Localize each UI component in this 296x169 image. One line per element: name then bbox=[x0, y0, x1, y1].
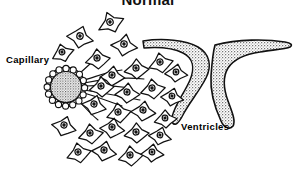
astrocyte-cell bbox=[95, 8, 127, 36]
astrocyte-cell bbox=[130, 100, 157, 123]
astrocyte-cell bbox=[84, 47, 112, 70]
astrocyte-cell bbox=[123, 122, 149, 144]
astrocyte-cell bbox=[64, 140, 93, 165]
diagram-canvas bbox=[0, 0, 296, 169]
astrocyte-cell bbox=[49, 113, 79, 139]
astrocyte-cell bbox=[77, 122, 105, 146]
astrocyte-cell bbox=[140, 143, 164, 163]
capillary-lumen bbox=[51, 72, 82, 103]
astrocyte-cell bbox=[104, 100, 133, 125]
figure-normal-astrocyte-diagram: Normal Capillary Ventricles bbox=[0, 0, 296, 169]
ventricle-outer-shape bbox=[211, 40, 292, 128]
astrocyte-cell bbox=[115, 83, 141, 104]
astrocyte-cell bbox=[109, 32, 139, 58]
capillary-group bbox=[44, 65, 88, 109]
astrocyte-cell bbox=[49, 40, 77, 65]
astrocyte-cell bbox=[117, 144, 145, 167]
figure-title: Normal bbox=[0, 0, 296, 8]
label-capillary: Capillary bbox=[6, 54, 49, 65]
astrocyte-cell bbox=[123, 58, 149, 80]
astrocyte-cell bbox=[90, 139, 118, 163]
astrocyte-cell bbox=[147, 125, 173, 147]
label-ventricles: Ventricles bbox=[181, 121, 229, 132]
astrocyte-cell bbox=[65, 24, 96, 51]
